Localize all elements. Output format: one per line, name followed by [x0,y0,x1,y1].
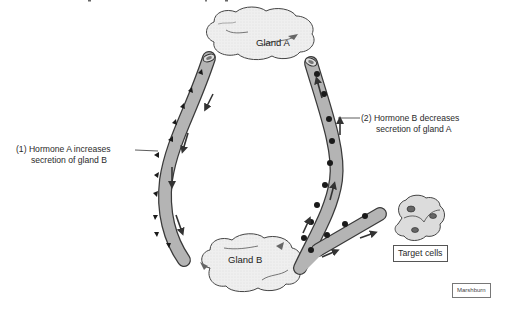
hormone-b-annotation-line2: secretion of gland A [361,124,459,135]
cropped-caption-fragment [88,0,228,2]
hormone-a-annotation-line1: (1) Hormone A increases [16,144,111,155]
hormone-b-annotation-line1: (2) Hormone B decreases [361,113,459,124]
leader-line-hormone-a [135,150,158,151]
feedback-diagram: Gland A Gland B (1) Hormone A increases … [0,0,509,310]
target-cells-label: Target cells [393,245,448,262]
credit-label: Marshburn [452,283,491,298]
gland-a-shape [207,7,315,60]
hormone-a-annotation-line2: secretion of gland B [16,155,111,166]
gland-a-label: Gland A [256,37,290,48]
vessel-hormone-a [153,53,216,260]
gland-b-label: Gland B [228,254,262,265]
hormone-a-annotation: (1) Hormone A increases secretion of gla… [16,144,111,166]
target-cells-shape [395,195,444,240]
hormone-b-annotation: (2) Hormone B decreases secretion of gla… [361,113,459,135]
vessel-hormone-b [300,56,380,268]
